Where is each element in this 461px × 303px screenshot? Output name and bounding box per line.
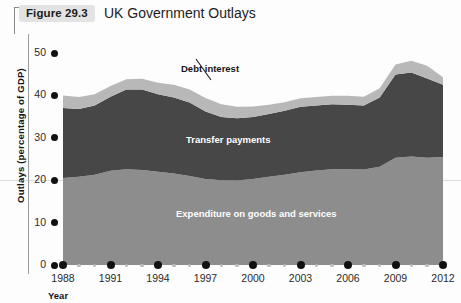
x-tick-marker-1991 <box>107 261 115 269</box>
x-tick-label-2009: 2009 <box>376 272 416 284</box>
x-tick-marker-2009 <box>392 261 400 269</box>
x-tick-marker-2006 <box>344 261 352 269</box>
x-tick-marker-2005 <box>330 264 334 268</box>
y-tick-label-30: 30 <box>0 131 46 143</box>
figure-header: Figure 29.3 UK Government Outlays <box>0 0 461 34</box>
plot-frame: Outlays (percentage of GDP) 01020304050 … <box>0 34 461 303</box>
x-tick-marker-1995 <box>172 264 176 268</box>
x-tick-marker-2011 <box>425 264 429 268</box>
y-tick-label-20: 20 <box>0 173 46 185</box>
x-tick-label-2000: 2000 <box>233 272 273 284</box>
x-tick-marker-2004 <box>315 264 319 268</box>
x-tick-marker-1992 <box>125 264 129 268</box>
x-tick-marker-1994 <box>154 261 162 269</box>
y-axis-line <box>28 34 29 274</box>
annotation-debt-interest: Debt interest <box>181 63 239 74</box>
y-tick-label-0: 0 <box>0 258 46 270</box>
x-tick-marker-2012 <box>439 261 447 269</box>
x-tick-marker-2007 <box>362 264 366 268</box>
figure-number-badge: Figure 29.3 <box>19 5 95 22</box>
x-tick-marker-2003 <box>297 261 305 269</box>
x-tick-marker-2000 <box>249 261 257 269</box>
figure-root: Figure 29.3 UK Government Outlays <box>0 0 461 303</box>
y-tick-label-10: 10 <box>0 216 46 228</box>
x-tick-label-1994: 1994 <box>138 272 178 284</box>
x-tick-label-2012: 2012 <box>423 272 461 284</box>
x-tick-marker-2001 <box>267 264 271 268</box>
x-tick-label-1988: 1988 <box>43 272 83 284</box>
figure-title: UK Government Outlays <box>104 5 256 21</box>
x-tick-marker-1998 <box>220 264 224 268</box>
x-tick-marker-2010 <box>410 264 414 268</box>
x-tick-label-2006: 2006 <box>328 272 368 284</box>
y-tick-marker-50 <box>51 50 58 57</box>
annotation-expenditure: Expenditure on goods and services <box>176 208 336 219</box>
x-tick-marker-1999 <box>235 264 239 268</box>
annotation-transfer-payments: Transfer payments <box>186 134 270 145</box>
x-tick-marker-1997 <box>202 261 210 269</box>
x-tick-label-1991: 1991 <box>91 272 131 284</box>
y-tick-label-50: 50 <box>0 46 46 58</box>
x-tick-label-1997: 1997 <box>186 272 226 284</box>
y-tick-marker-40 <box>51 92 58 99</box>
x-tick-marker-1993 <box>140 264 144 268</box>
x-axis-title: Year <box>48 290 68 301</box>
x-tick-marker-1989 <box>77 264 81 268</box>
x-tick-marker-1988 <box>59 261 67 269</box>
y-tick-marker-20 <box>51 177 58 184</box>
y-tick-label-40: 40 <box>0 88 46 100</box>
y-tick-marker-0 <box>51 262 58 269</box>
x-tick-label-2003: 2003 <box>281 272 321 284</box>
